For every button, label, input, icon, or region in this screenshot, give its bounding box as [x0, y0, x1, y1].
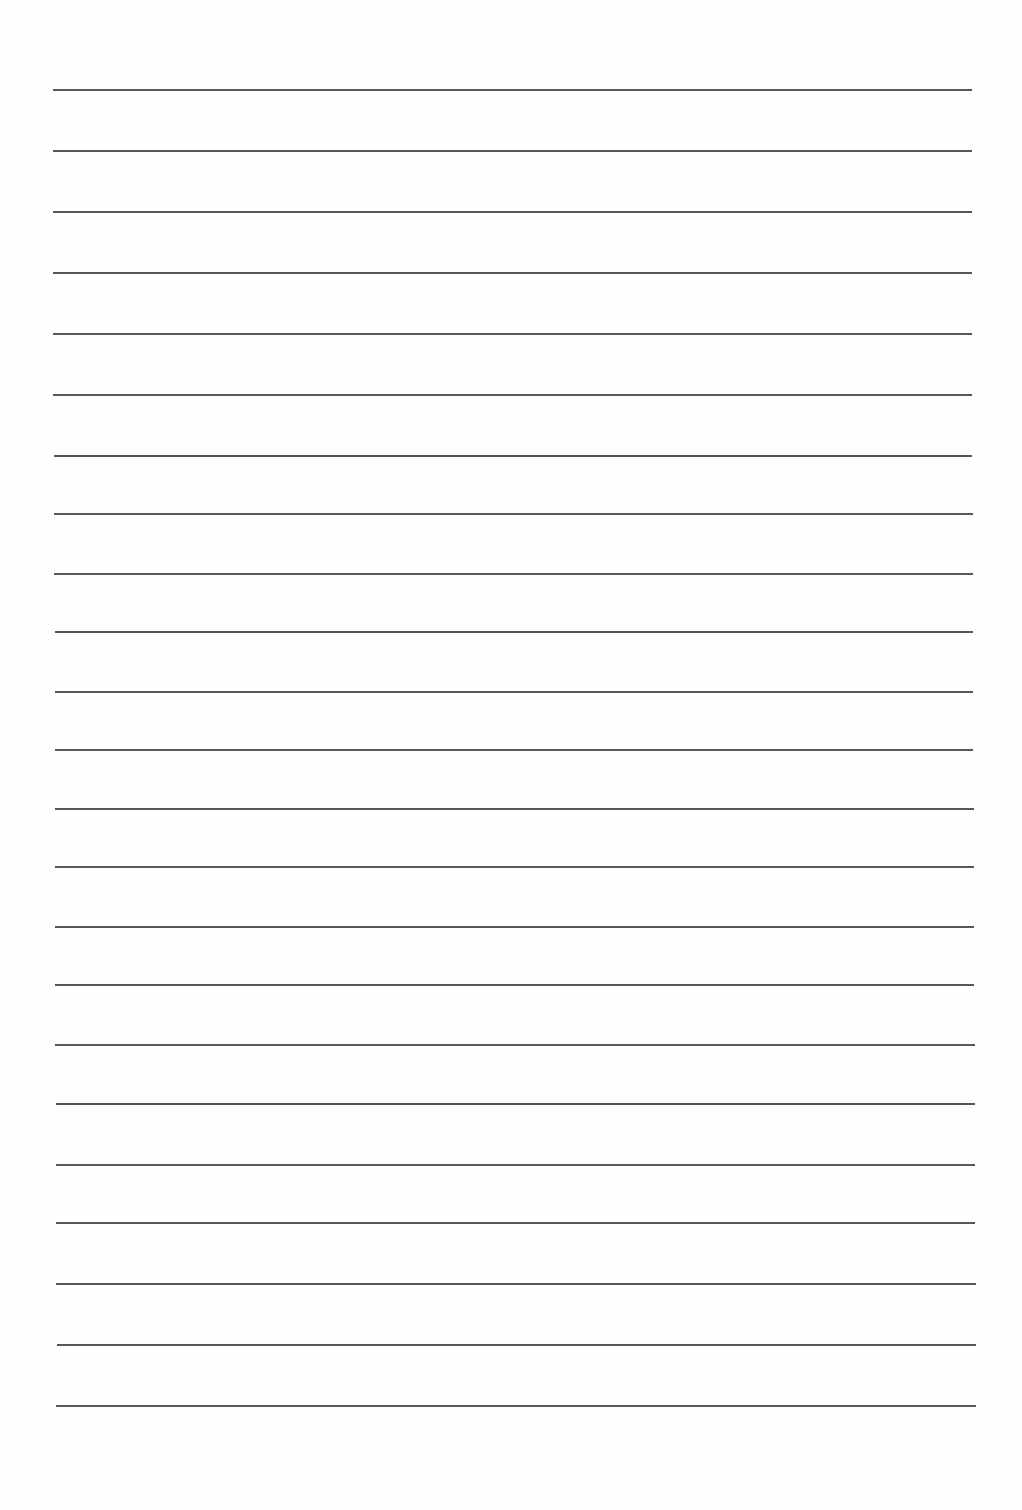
ruled-line: [54, 455, 972, 457]
ruled-line: [55, 631, 973, 633]
ruled-line: [55, 926, 974, 928]
ruled-line: [55, 1044, 975, 1046]
ruled-line: [55, 866, 974, 868]
ruled-line: [55, 691, 973, 693]
ruled-line: [56, 1222, 975, 1224]
lined-paper-page: [0, 0, 1022, 1510]
ruled-line: [53, 211, 972, 213]
ruled-line: [53, 272, 972, 274]
ruled-line: [56, 1164, 975, 1166]
ruled-line: [55, 808, 974, 810]
ruled-line: [53, 89, 972, 91]
ruled-line: [56, 1103, 975, 1105]
ruled-line: [55, 749, 973, 751]
ruled-line: [56, 1283, 976, 1285]
ruled-line: [57, 1344, 976, 1346]
ruled-line: [54, 513, 973, 515]
ruled-line: [53, 333, 972, 335]
ruled-line: [54, 573, 973, 575]
ruled-line: [53, 150, 972, 152]
ruled-line: [55, 984, 974, 986]
ruled-line: [56, 1405, 976, 1407]
ruled-line: [53, 394, 972, 396]
